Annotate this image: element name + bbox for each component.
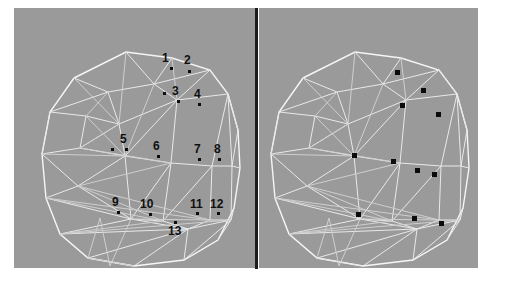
- mesh-marker: [395, 70, 400, 75]
- landmark-point-5: [125, 148, 128, 151]
- landmark-point-13: [174, 221, 177, 224]
- landmark-label-2: 2: [184, 54, 191, 66]
- mesh-marker: [391, 159, 396, 164]
- landmark-dot: [163, 92, 166, 95]
- mesh-marker: [352, 153, 357, 158]
- figure-root: 12345678910111213: [0, 0, 505, 299]
- landmark-point-6: [157, 155, 160, 158]
- mesh-marker: [415, 168, 420, 173]
- annotated-mesh-panel: [14, 8, 257, 268]
- mesh-marker: [356, 212, 361, 217]
- mesh-marker: [436, 112, 441, 117]
- landmark-label-4: 4: [194, 88, 201, 100]
- landmark-point-10: [149, 213, 152, 216]
- right-wireframe-svg: [259, 8, 478, 268]
- landmark-label-1: 1: [162, 52, 169, 64]
- panel-divider: [255, 8, 258, 269]
- landmark-label-11: 11: [190, 198, 203, 210]
- landmark-point-1: [170, 67, 173, 70]
- left-mesh-edges: [42, 52, 240, 266]
- landmark-point-2: [188, 70, 191, 73]
- mesh-marker: [412, 216, 417, 221]
- mesh-marker: [421, 88, 426, 93]
- landmark-label-8: 8: [214, 143, 221, 155]
- landmark-label-7: 7: [194, 143, 201, 155]
- landmark-label-5: 5: [120, 133, 127, 145]
- unannotated-mesh-panel: [259, 8, 478, 268]
- mesh-marker: [439, 221, 444, 226]
- mesh-marker: [432, 172, 437, 177]
- landmark-label-9: 9: [112, 196, 119, 208]
- landmark-label-13: 13: [168, 225, 181, 237]
- landmark-point-12: [217, 212, 220, 215]
- landmark-point-4: [198, 103, 201, 106]
- landmark-label-12: 12: [210, 198, 223, 210]
- landmark-point-3: [177, 100, 180, 103]
- landmark-label-3: 3: [172, 85, 179, 97]
- landmark-label-10: 10: [140, 198, 153, 210]
- landmark-point-9: [117, 211, 120, 214]
- landmark-point-8: [218, 158, 221, 161]
- left-wireframe-svg: [14, 8, 257, 268]
- landmark-label-6: 6: [153, 140, 160, 152]
- landmark-point-7: [198, 158, 201, 161]
- right-mesh-edges: [271, 52, 469, 266]
- landmark-point-11: [196, 212, 199, 215]
- mesh-marker: [400, 103, 405, 108]
- landmark-dot: [111, 148, 114, 151]
